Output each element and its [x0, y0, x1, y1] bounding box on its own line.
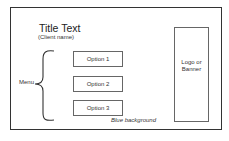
menu-option-3[interactable]: Option 3 [73, 100, 123, 116]
menu-option-2[interactable]: Option 2 [73, 76, 123, 92]
curly-brace-icon [30, 49, 58, 123]
page-title: Title Text [39, 23, 80, 34]
logo-banner-placeholder: Logo or Banner [174, 27, 209, 122]
logo-banner-label: Logo or Banner [175, 59, 208, 73]
client-name-subtitle: (Client name) [38, 34, 74, 41]
logo-label-line2: Banner [175, 66, 208, 73]
background-note: Blue background [111, 117, 156, 124]
menu-option-1[interactable]: Option 1 [73, 51, 123, 67]
logo-label-line1: Logo or [175, 59, 208, 66]
